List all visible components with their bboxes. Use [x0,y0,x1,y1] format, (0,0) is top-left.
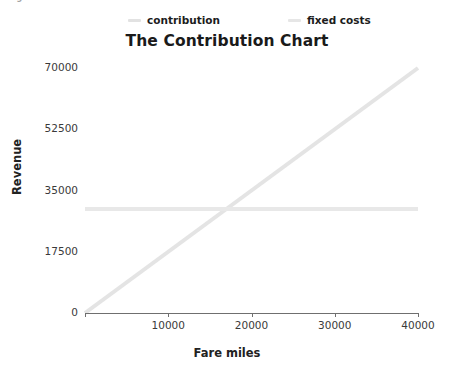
x-tick-mark [252,313,253,317]
figure-caption: Figure 4.6 The contribution chart [8,0,161,2]
y-tick-label: 17500 [18,246,78,257]
legend-item-fixed-costs[interactable]: fixed costs [288,12,371,28]
x-tick-mark [85,313,86,317]
plot-area [85,68,418,313]
legend-swatch-fixed-costs-icon [288,19,301,22]
x-axis-label: Fare miles [0,346,454,360]
chart-legend: contribution fixed costs [0,12,454,28]
x-tick-mark [168,313,169,317]
y-tick-label: 52500 [18,123,78,134]
x-tick-mark [418,313,419,317]
legend-label-contribution: contribution [147,15,220,26]
y-tick-label: 0 [18,307,78,318]
x-tick-label: 30000 [300,319,370,331]
chart-title: The Contribution Chart [0,32,454,50]
y-tick-label: 70000 [18,62,78,73]
plot-lines [85,68,418,313]
x-tick-label: 10000 [133,319,203,331]
y-tick-label: 35000 [18,185,78,196]
legend-item-contribution[interactable]: contribution [128,12,220,28]
x-tick-label: 40000 [383,319,453,331]
x-tick-mark [335,313,336,317]
chart-figure: Figure 4.6 The contribution chart contri… [0,0,454,372]
legend-label-fixed-costs: fixed costs [307,15,371,26]
legend-swatch-contribution-icon [128,19,141,22]
series-line-contribution [85,68,418,313]
x-tick-label: 20000 [217,319,287,331]
